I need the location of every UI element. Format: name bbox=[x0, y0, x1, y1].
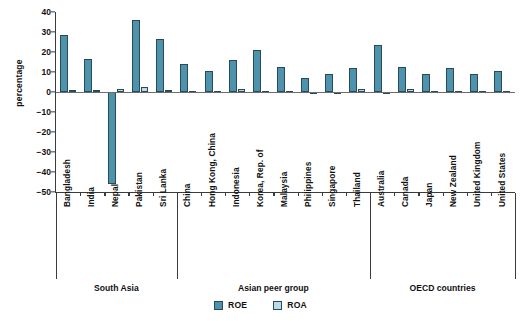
bar-roe bbox=[253, 50, 261, 92]
y-tick-mark bbox=[51, 151, 55, 152]
x-tick-mark bbox=[298, 192, 299, 196]
y-tick-mark bbox=[51, 111, 55, 112]
y-tick-label: 40 bbox=[17, 7, 51, 17]
y-axis-ticks: 403020100−10−20−30−40−50 bbox=[0, 0, 51, 200]
bar-roe bbox=[422, 74, 430, 92]
x-tick-mark bbox=[80, 192, 81, 196]
x-tick-label: Thailand bbox=[352, 172, 362, 207]
bar-roe bbox=[156, 39, 164, 92]
group-boundary bbox=[515, 193, 516, 279]
bar-roe bbox=[108, 92, 116, 184]
x-tick-label: India bbox=[86, 187, 96, 207]
x-tick-label: Pakistan bbox=[134, 172, 144, 207]
x-tick-label: Hong Kong, China bbox=[207, 133, 217, 207]
x-tick-label: Sri Lanka bbox=[158, 169, 168, 207]
y-tick-label: 10 bbox=[17, 67, 51, 77]
x-tick-label: Indonesia bbox=[231, 167, 241, 207]
x-tick-mark bbox=[418, 192, 419, 196]
x-tick-label: Canada bbox=[400, 176, 410, 207]
x-tick-label: Philippines bbox=[303, 162, 313, 207]
x-tick-label: China bbox=[182, 183, 192, 207]
y-tick-label: 0 bbox=[17, 87, 51, 97]
bar-roe bbox=[494, 71, 502, 92]
legend-swatch-roe-icon bbox=[214, 301, 223, 310]
legend-item-roe[interactable]: ROE bbox=[214, 300, 247, 310]
bar-roe bbox=[277, 67, 285, 92]
y-tick-label: −40 bbox=[17, 167, 51, 177]
legend-label: ROE bbox=[228, 300, 247, 310]
y-tick-label: −10 bbox=[17, 107, 51, 117]
legend-item-roa[interactable]: ROA bbox=[273, 300, 307, 310]
group-label: OECD countries bbox=[410, 283, 476, 293]
x-tick-label: New Zealand bbox=[448, 155, 458, 207]
group-label: Asian peer group bbox=[238, 283, 309, 293]
y-tick-mark bbox=[51, 51, 55, 52]
x-tick-mark bbox=[201, 192, 202, 196]
y-tick-mark bbox=[51, 71, 55, 72]
x-tick-label: Japan bbox=[424, 183, 434, 207]
x-tick-mark bbox=[443, 192, 444, 196]
x-tick-label: Korea, Rep. of bbox=[255, 149, 265, 207]
x-tick-label: Australia bbox=[376, 171, 386, 207]
group-separator bbox=[370, 193, 371, 279]
x-tick-mark bbox=[322, 192, 323, 196]
y-tick-label: −20 bbox=[17, 127, 51, 137]
chart-legend: ROEROA bbox=[0, 300, 521, 310]
x-tick-mark bbox=[394, 192, 395, 196]
group-boundary bbox=[56, 193, 57, 279]
x-tick-label: Malaysia bbox=[279, 172, 289, 207]
bar-roe bbox=[60, 35, 68, 92]
bar-roe bbox=[374, 45, 382, 92]
bar-roe bbox=[205, 71, 213, 92]
x-tick-label: Singapore bbox=[327, 166, 337, 207]
x-tick-label: United States bbox=[497, 153, 507, 207]
x-tick-mark bbox=[346, 192, 347, 196]
x-tick-mark bbox=[467, 192, 468, 196]
y-tick-label: −50 bbox=[17, 187, 51, 197]
y-tick-mark bbox=[51, 191, 55, 192]
x-tick-mark bbox=[225, 192, 226, 196]
group-separator bbox=[177, 193, 178, 279]
group-label: South Asia bbox=[94, 283, 139, 293]
y-tick-mark bbox=[51, 11, 55, 12]
bar-roe bbox=[84, 59, 92, 92]
y-tick-mark bbox=[51, 171, 55, 172]
y-tick-label: −30 bbox=[17, 147, 51, 157]
legend-label: ROA bbox=[287, 300, 307, 310]
bar-roe bbox=[325, 74, 333, 92]
bar-roe bbox=[132, 20, 140, 92]
x-tick-mark bbox=[128, 192, 129, 196]
x-tick-mark bbox=[491, 192, 492, 196]
x-tick-mark bbox=[273, 192, 274, 196]
y-tick-mark bbox=[51, 31, 55, 32]
plot-area bbox=[56, 12, 515, 192]
bar-roe bbox=[470, 74, 478, 92]
zero-baseline bbox=[56, 92, 515, 93]
x-tick-label: Nepal bbox=[110, 184, 120, 207]
x-tick-mark bbox=[249, 192, 250, 196]
y-tick-label: 30 bbox=[17, 27, 51, 37]
x-tick-mark bbox=[153, 192, 154, 196]
y-tick-mark bbox=[51, 91, 55, 92]
bar-roe bbox=[398, 67, 406, 92]
bar-roe bbox=[349, 68, 357, 92]
x-tick-label: United Kingdom bbox=[472, 142, 482, 207]
x-tick-label: Bangladesh bbox=[62, 159, 72, 207]
bar-chart: percentage 403020100−10−20−30−40−50 Bang… bbox=[0, 0, 521, 321]
bar-roe bbox=[229, 60, 237, 92]
bar-roe bbox=[180, 64, 188, 92]
y-tick-mark bbox=[51, 131, 55, 132]
bar-roe bbox=[446, 68, 454, 92]
x-tick-mark bbox=[104, 192, 105, 196]
bar-roe bbox=[301, 78, 309, 92]
y-tick-label: 20 bbox=[17, 47, 51, 57]
legend-swatch-roa-icon bbox=[273, 301, 282, 310]
